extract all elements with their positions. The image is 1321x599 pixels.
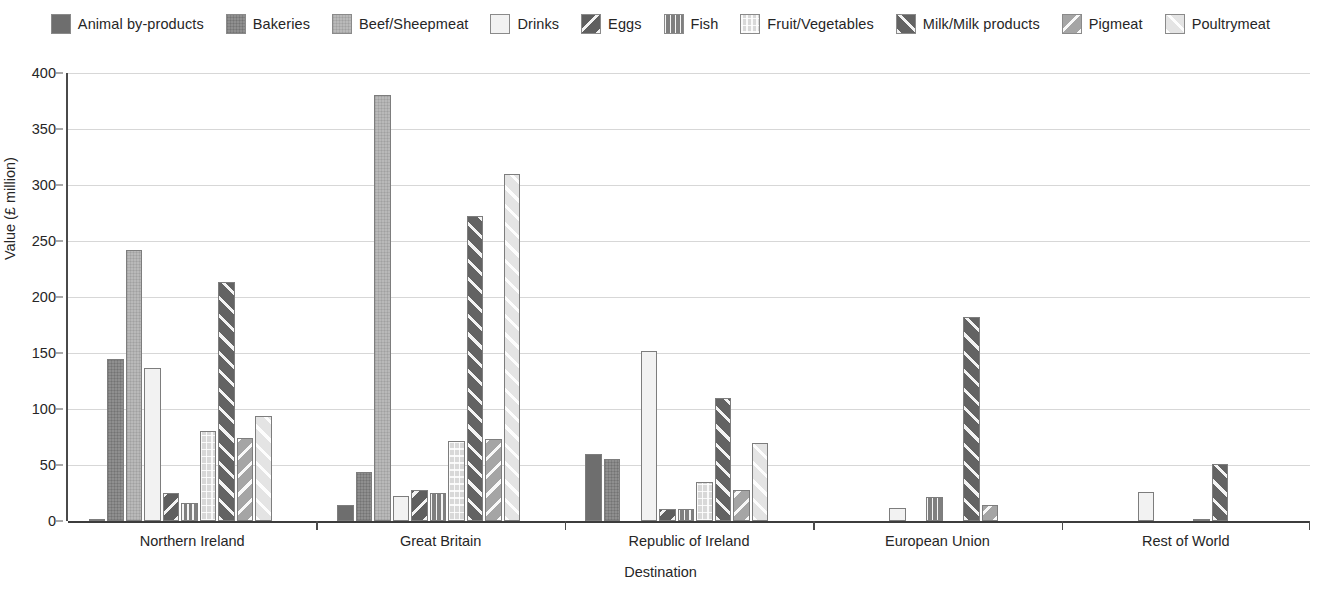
y-tick-label: 200 [32,289,56,305]
bar[interactable] [144,368,161,521]
y-tick-mark [56,297,63,298]
bar[interactable] [678,509,695,521]
bar-group [813,69,1061,521]
legend-item-bakeries[interactable]: Bakeries [226,14,310,34]
bar[interactable] [218,282,235,521]
bar[interactable] [926,497,943,521]
bar[interactable] [237,438,254,521]
x-axis-title: Destination [0,564,1321,580]
legend-item-fruit-vegetables[interactable]: Fruit/Vegetables [740,14,873,34]
bar[interactable] [163,493,180,521]
legend-swatch-icon [581,14,601,34]
bar[interactable] [585,454,602,521]
bar[interactable] [200,431,217,521]
bar[interactable] [393,496,410,521]
bar[interactable] [1212,464,1229,521]
y-tick-label: 300 [32,177,56,193]
bar[interactable] [1138,492,1155,521]
y-tick-label: 250 [32,233,56,249]
legend-label: Drinks [517,16,559,32]
bar[interactable] [715,398,732,521]
legend-item-eggs[interactable]: Eggs [581,14,641,34]
legend-item-pigmeat[interactable]: Pigmeat [1062,14,1143,34]
bar[interactable] [411,490,428,521]
x-tick-label: Rest of World [1142,533,1230,549]
y-tick-label: 150 [32,345,56,361]
legend-item-animal-by-products[interactable]: Animal by-products [51,14,204,34]
y-tick-mark [56,521,63,522]
y-tick-mark [56,409,63,410]
bar-group [1062,69,1310,521]
x-axis-labels: Northern IrelandGreat BritainRepublic of… [68,533,1310,559]
y-tick-mark [56,353,63,354]
legend-item-beef-sheepmeat[interactable]: Beef/Sheepmeat [332,14,468,34]
bar-chart: Animal by-productsBakeriesBeef/Sheepmeat… [0,0,1321,599]
legend-swatch-icon [490,14,510,34]
bar[interactable] [963,317,980,521]
x-tick-label: Republic of Ireland [629,533,750,549]
legend-label: Fish [691,16,719,32]
bar[interactable] [430,493,447,521]
legend-item-fish[interactable]: Fish [664,14,719,34]
y-tick-mark [56,73,63,74]
legend-label: Fruit/Vegetables [767,16,873,32]
bar[interactable] [485,439,502,521]
y-tick-mark [56,241,63,242]
y-tick-mark [56,185,63,186]
legend-label: Pigmeat [1089,16,1143,32]
legend-swatch-icon [51,14,71,34]
bar[interactable] [504,174,521,521]
x-axis-line [68,521,1310,523]
x-tick-mark [813,521,814,530]
legend-label: Beef/Sheepmeat [359,16,468,32]
legend-label: Eggs [608,16,641,32]
bar[interactable] [752,443,769,521]
chart-legend: Animal by-productsBakeriesBeef/Sheepmeat… [0,14,1321,34]
plot-area: Value (£ million) 0501001502002503003504… [0,60,1321,530]
legend-label: Animal by-products [78,16,204,32]
y-tick-mark [56,465,63,466]
bar[interactable] [641,351,658,521]
bar-group [316,69,564,521]
bar[interactable] [889,508,906,521]
bar[interactable] [733,490,750,521]
x-tick-label: Northern Ireland [140,533,245,549]
bar[interactable] [467,216,484,521]
bar[interactable] [107,359,124,521]
y-axis-ticks: 050100150200250300350400 [18,60,66,530]
legend-item-drinks[interactable]: Drinks [490,14,559,34]
bar-group [565,69,813,521]
bar[interactable] [337,505,354,521]
bar[interactable] [982,505,999,521]
y-tick-label: 350 [32,121,56,137]
legend-label: Bakeries [253,16,310,32]
y-tick-label: 0 [48,513,56,529]
legend-label: Milk/Milk products [923,16,1040,32]
y-tick-label: 100 [32,401,56,417]
x-tick-label: European Union [885,533,990,549]
x-tick-mark [1309,521,1310,530]
x-tick-label: Great Britain [400,533,481,549]
bar[interactable] [448,441,465,521]
bar[interactable] [1193,519,1210,521]
legend-swatch-icon [740,14,760,34]
bar[interactable] [255,416,272,521]
bar[interactable] [374,95,391,521]
legend-item-poultrymeat[interactable]: Poultrymeat [1165,14,1270,34]
bar[interactable] [696,482,713,521]
y-tick-label: 400 [32,65,56,81]
x-tick-mark [316,521,317,530]
bars-container [68,60,1310,530]
legend-label: Poultrymeat [1192,16,1270,32]
legend-item-milk-milk-products[interactable]: Milk/Milk products [896,14,1040,34]
bar-group [68,69,316,521]
bar[interactable] [356,472,373,521]
bar[interactable] [126,250,143,521]
bar[interactable] [659,509,676,521]
bar[interactable] [604,459,621,521]
legend-swatch-icon [332,14,352,34]
bar[interactable] [89,519,106,521]
legend-swatch-icon [896,14,916,34]
bar[interactable] [181,503,198,521]
x-tick-mark [565,521,566,530]
